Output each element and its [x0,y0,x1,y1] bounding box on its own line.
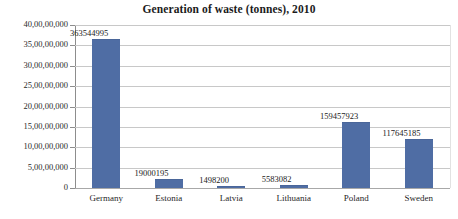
bar [405,139,433,188]
y-axis-tick-label: 35,00,00,000 [0,40,68,49]
x-axis-category-label: Sweden [388,192,451,204]
gridline [75,188,450,189]
y-axis-tick-label: 10,00,00,000 [0,142,68,151]
bar [342,122,370,188]
y-axis-tick [70,147,75,148]
x-axis-category-labels: GermanyEstoniaLatviaLithuaniaPolandSwede… [75,192,450,208]
y-axis-tick [70,25,75,26]
bar-value-label: 1498200 [184,176,244,185]
y-axis-tick [70,168,75,169]
x-axis-category-label: Lithuania [263,192,326,204]
bar-slot: 5583082 [263,25,326,188]
bar-slot: 117645185 [388,25,451,188]
bar [280,185,308,188]
bar-value-label: 363544995 [59,29,119,38]
y-axis-tick [70,45,75,46]
bar-value-label: 19000195 [122,169,182,178]
plot-area: 3635449951900019514982005583082159457923… [75,25,450,188]
y-axis-labels: 40,00,00,00035,00,00,00030,00,00,00025,0… [0,0,68,219]
bar-slot: 159457923 [325,25,388,188]
y-axis-tick-label: 30,00,00,000 [0,61,68,70]
x-axis-category-label: Germany [75,192,138,204]
y-axis-tick [70,66,75,67]
y-axis-tick-label: 15,00,00,000 [0,122,68,131]
y-axis-tick [70,188,75,189]
y-axis-tick [70,86,75,87]
bar-slot: 1498200 [200,25,263,188]
y-axis-tick-label: 5,00,00,000 [0,163,68,172]
y-axis-tick-label: 0 [0,183,68,192]
x-axis-category-label: Poland [325,192,388,204]
bar [155,179,183,188]
bar-value-label: 117645185 [372,129,432,138]
bar-slot: 363544995 [75,25,138,188]
y-axis-tick [70,107,75,108]
chart-title: Generation of waste (tonnes), 2010 [0,3,458,16]
y-axis-tick-label: 25,00,00,000 [0,81,68,90]
x-axis-category-label: Latvia [200,192,263,204]
plot-right-edge [450,25,451,188]
waste-generation-bar-chart: Generation of waste (tonnes), 2010 40,00… [0,0,458,219]
bar-slot: 19000195 [138,25,201,188]
bar-value-label: 159457923 [309,112,369,121]
y-axis-tick [70,127,75,128]
bar [217,186,245,188]
bar-value-label: 5583082 [247,175,307,184]
x-axis-category-label: Estonia [138,192,201,204]
y-axis-tick-label: 40,00,00,000 [0,20,68,29]
y-axis-tick-label: 20,00,00,000 [0,102,68,111]
bar [92,39,120,188]
